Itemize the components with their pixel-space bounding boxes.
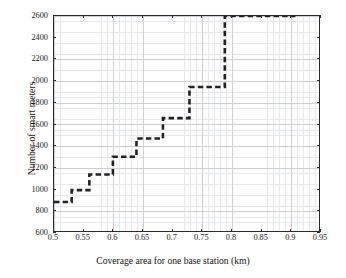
- y-axis-tick: [53, 145, 56, 146]
- y-axis-tick-label: 600: [0, 228, 48, 237]
- x-axis-tick-label: 0.55: [75, 233, 90, 242]
- x-axis-tick: [201, 229, 202, 232]
- y-axis-tick-right: [317, 80, 320, 81]
- y-axis-tick-label: 2200: [0, 54, 48, 63]
- y-axis-tick-label: 1600: [0, 119, 48, 128]
- y-axis-tick-label: 1400: [0, 141, 48, 150]
- x-axis-tick: [172, 229, 173, 232]
- y-axis-tick-label: 1200: [0, 162, 48, 171]
- y-axis-tick-label: 1000: [0, 184, 48, 193]
- y-axis-tick-label: 2600: [0, 11, 48, 20]
- x-axis-tick-label: 0.8: [226, 233, 236, 242]
- x-axis-tick-label: 0.5: [48, 233, 58, 242]
- y-axis-tick-label: 1800: [0, 97, 48, 106]
- y-axis-tick-label: 2400: [0, 32, 48, 41]
- x-axis-tick-top: [231, 15, 232, 18]
- x-axis-tick-top: [53, 15, 54, 18]
- x-axis-tick-top: [290, 15, 291, 18]
- x-axis-tick-label: 0.75: [194, 233, 209, 242]
- x-axis-tick-top: [320, 15, 321, 18]
- y-axis-tick: [53, 102, 56, 103]
- y-axis-tick: [53, 210, 56, 211]
- y-axis-tick-right: [317, 124, 320, 125]
- plot-area: [53, 15, 320, 232]
- y-axis-tick: [53, 58, 56, 59]
- y-axis-tick: [53, 189, 56, 190]
- y-axis-tick-right: [317, 167, 320, 168]
- x-axis-tick: [83, 229, 84, 232]
- x-axis-tick-label: 0.9: [285, 233, 295, 242]
- x-axis-tick-top: [142, 15, 143, 18]
- y-axis-tick-right: [317, 210, 320, 211]
- y-axis-tick-right: [317, 58, 320, 59]
- x-axis-tick-top: [201, 15, 202, 18]
- x-axis-title: Coverage area for one base station (km): [0, 255, 346, 266]
- chart-figure: Number of smart meters Coverage area for…: [0, 0, 346, 278]
- x-axis-tick: [261, 229, 262, 232]
- y-axis-tick: [53, 37, 56, 38]
- y-axis-tick-label: 2000: [0, 76, 48, 85]
- x-axis-tick-top: [83, 15, 84, 18]
- y-axis-tick-right: [317, 102, 320, 103]
- x-axis-tick: [290, 229, 291, 232]
- y-axis-tick-right: [317, 189, 320, 190]
- x-axis-tick: [53, 229, 54, 232]
- x-axis-tick-label: 0.7: [166, 233, 176, 242]
- x-axis-tick-top: [172, 15, 173, 18]
- x-axis-tick-top: [261, 15, 262, 18]
- y-axis-tick: [53, 167, 56, 168]
- x-axis-tick: [231, 229, 232, 232]
- y-axis-tick-label: 800: [0, 206, 48, 215]
- x-axis-tick-label: 0.95: [313, 233, 328, 242]
- y-axis-tick: [53, 124, 56, 125]
- y-axis-tick-right: [317, 145, 320, 146]
- x-axis-tick-label: 0.85: [253, 233, 268, 242]
- y-axis-tick-right: [317, 37, 320, 38]
- x-axis-tick-top: [112, 15, 113, 18]
- step-line-series: [54, 16, 319, 231]
- x-axis-tick: [112, 229, 113, 232]
- x-axis-tick-label: 0.6: [107, 233, 117, 242]
- x-axis-tick: [142, 229, 143, 232]
- x-axis-tick: [320, 229, 321, 232]
- y-axis-tick: [53, 80, 56, 81]
- x-axis-tick-label: 0.65: [135, 233, 150, 242]
